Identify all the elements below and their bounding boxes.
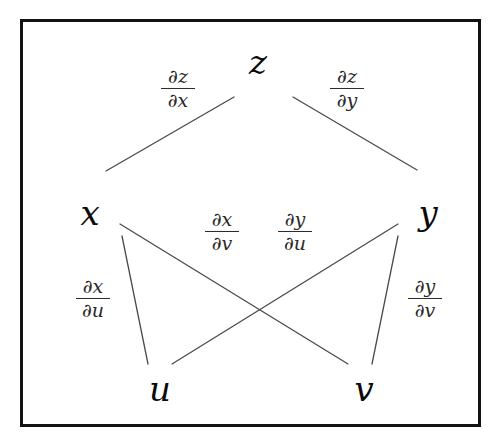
edge-label-dx-dv: ∂x∂v [205,209,239,253]
node-x: x [80,196,99,230]
node-v: v [354,372,373,406]
fraction-numerator: ∂y [283,209,308,231]
fraction-numerator: ∂x [210,209,235,231]
fraction-numerator: ∂x [81,276,106,298]
fraction-denominator: ∂v [413,299,438,321]
edge-x-u [122,236,148,364]
fraction-denominator: ∂u [80,299,106,321]
edge-label-dy-du: ∂y∂u [278,209,312,253]
edge-y-v [372,236,398,364]
fraction-numerator: ∂z [166,66,190,88]
edge-label-dz-dx: ∂z∂x [161,66,195,110]
edge-label-dy-dv: ∂y∂v [408,276,442,320]
node-z: z [249,45,267,79]
node-y: y [418,196,437,230]
fraction-numerator: ∂z [335,66,359,88]
edge-label-dz-dy: ∂z∂y [330,66,364,110]
fraction-numerator: ∂y [413,276,438,298]
fraction-denominator: ∂u [282,232,308,254]
edge-label-dx-du: ∂x∂u [76,276,110,320]
fraction-denominator: ∂x [166,89,191,111]
fraction-denominator: ∂v [210,232,235,254]
figure-canvas: zxyuv ∂z∂x∂z∂y∂x∂v∂y∂u∂x∂u∂y∂v [0,0,500,445]
fraction-denominator: ∂y [335,89,360,111]
node-u: u [149,372,171,406]
